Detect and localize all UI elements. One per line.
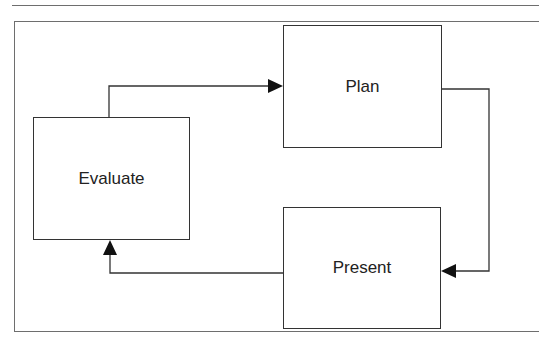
edge-plan-to-present (442, 89, 489, 271)
node-present-label: Present (333, 258, 392, 278)
arrowhead-present (441, 264, 456, 278)
arrowhead-evaluate (103, 240, 117, 255)
node-present: Present (283, 207, 441, 329)
node-evaluate-label: Evaluate (78, 169, 144, 189)
node-plan: Plan (283, 25, 442, 148)
arrowhead-plan (268, 79, 283, 93)
node-evaluate: Evaluate (33, 117, 190, 240)
edge-present-to-evaluate (110, 252, 283, 273)
node-plan-label: Plan (345, 77, 379, 97)
edge-evaluate-to-plan (109, 86, 272, 117)
